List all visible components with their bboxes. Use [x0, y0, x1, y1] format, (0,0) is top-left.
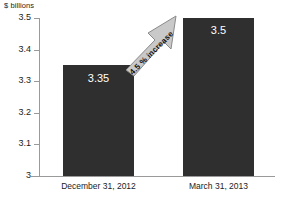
bar-march-31-2013[interactable]	[183, 18, 254, 176]
bar-value-label: 3.5	[183, 24, 254, 36]
x-tick-label-march-31-2013: March 31, 2013	[173, 181, 264, 191]
bar-chart: $ billions 3.5 3.4 3.3 3.2 3.1 3	[0, 0, 283, 202]
bar-value-label: 3.35	[63, 72, 134, 84]
plot-area: 3.35 3.5 December 31, 2012 March 31, 201…	[0, 0, 283, 202]
x-tick-label-december-31-2012: December 31, 2012	[48, 181, 149, 191]
